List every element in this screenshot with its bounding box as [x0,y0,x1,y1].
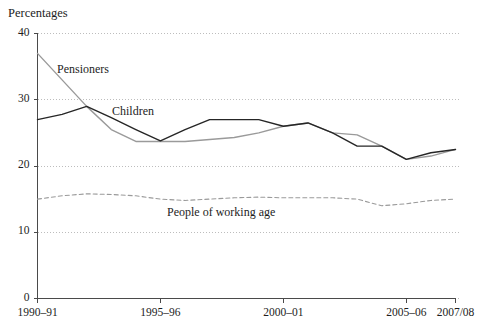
series-line [38,194,456,206]
chart-plot-area [0,0,490,333]
x-axis-tick-label: 1990–91 [0,306,78,318]
series-label: Pensioners [57,62,109,77]
series-label: Children [112,104,154,119]
x-axis-tick-label: 2007/08 [416,306,490,318]
y-axis-tick-label: 20 [0,158,30,170]
series-label: People of working age [167,205,275,220]
x-axis-tick-label: 2000–01 [243,306,323,318]
x-axis-tick-label: 1995–96 [120,306,200,318]
y-axis-tick-label: 30 [0,92,30,104]
chart-container: Percentages 010203040 1990–911995–962000… [0,0,490,333]
y-axis-tick-label: 0 [0,291,30,303]
y-axis-tick-label: 10 [0,224,30,236]
series-line [38,106,456,159]
y-axis-tick-label: 40 [0,26,30,38]
